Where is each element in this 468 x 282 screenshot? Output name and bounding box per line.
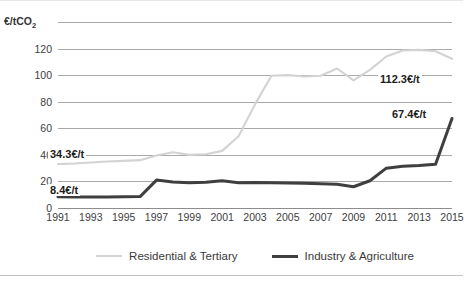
frame-top-rule	[0, 0, 463, 1]
y-tick-label-40: 40	[8, 150, 52, 160]
legend-label-industry-agriculture: Industry & Agriculture	[305, 250, 414, 262]
x-tick-label-2015: 2015	[432, 211, 468, 223]
y-tick-label-80: 80	[8, 97, 52, 107]
series-line-industry-agriculture	[58, 118, 452, 197]
annotation-industry-start: 8.4€/t	[48, 184, 80, 196]
annotation-residential-end: 112.3€/t	[378, 73, 422, 85]
line-swatch-dark-icon	[272, 255, 298, 258]
x-axis-tick-labels: 1991199319951997199920012003200520072009…	[58, 211, 452, 227]
chart-legend: Residential & Tertiary Industry & Agricu…	[58, 246, 452, 266]
y-tick-label-120: 120	[8, 44, 52, 54]
legend-item-residential-tertiary[interactable]: Residential & Tertiary	[96, 250, 237, 262]
line-swatch-light-icon	[96, 255, 122, 257]
y-tick-label-100: 100	[8, 70, 52, 80]
legend-item-industry-agriculture[interactable]: Industry & Agriculture	[272, 250, 414, 262]
y-axis-tick-labels: 020406080100120	[0, 22, 52, 208]
annotation-residential-start: 34.3€/t	[48, 148, 86, 160]
y-tick-label-60: 60	[8, 123, 52, 133]
y-tick-label-20: 20	[8, 176, 52, 186]
x-axis-line	[58, 208, 452, 209]
annotation-industry-end: 67.4€/t	[390, 108, 428, 120]
frame-bottom-rule	[0, 275, 463, 276]
legend-label-residential-tertiary: Residential & Tertiary	[129, 250, 237, 262]
